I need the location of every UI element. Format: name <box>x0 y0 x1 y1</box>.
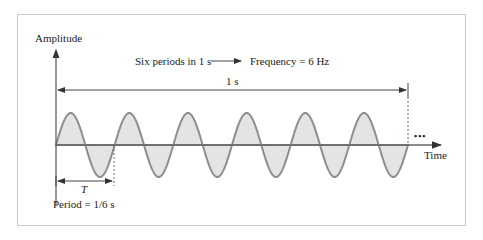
period-symbol: T <box>81 184 87 195</box>
continuation-dots: ••• <box>414 132 426 141</box>
time-label: Time <box>424 150 447 161</box>
one-second-label: 1 s <box>226 76 239 87</box>
amplitude-label: Amplitude <box>35 33 82 44</box>
frequency-label: Frequency = 6 Hz <box>250 56 329 67</box>
six-periods-label: Six periods in 1 s <box>135 56 211 67</box>
period-caption: Period = 1/6 s <box>53 199 115 210</box>
